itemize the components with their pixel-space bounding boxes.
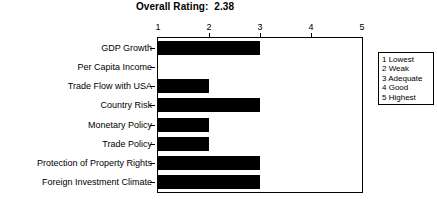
y-axis-category-label: Monetary Policy: [88, 120, 152, 130]
bar: [158, 118, 209, 132]
chart-title: Overall Rating: 2.38: [0, 1, 370, 12]
legend-entry: 4 Good: [382, 83, 433, 92]
bar: [158, 98, 260, 112]
legend-entry: 3 Adequate: [382, 74, 433, 83]
y-axis-category-label: Trade Policy: [102, 139, 152, 149]
x-tick-label: 2: [206, 22, 211, 32]
bar-series: [158, 38, 362, 192]
x-tick-label: 4: [308, 22, 313, 32]
y-axis-category-label: Foreign Investment Climate: [42, 177, 152, 187]
x-tick-label: 3: [257, 22, 262, 32]
y-axis-category-label: GDP Growth: [101, 43, 152, 53]
y-axis-labels: GDP GrowthPer Capita IncomeTrade Flow wi…: [0, 37, 155, 193]
legend-entry: 5 Highest: [382, 93, 433, 102]
x-tick-label: 1: [155, 22, 160, 32]
bar: [158, 137, 209, 151]
bar: [158, 175, 260, 189]
legend-entry: 1 Lowest: [382, 55, 433, 64]
legend-entry: 2 Weak: [382, 64, 433, 73]
bar: [158, 41, 260, 55]
y-axis-category-label: Per Capita Income: [77, 62, 152, 72]
y-axis-category-label: Protection of Property Rights: [37, 158, 152, 168]
x-tick-label: 5: [359, 22, 364, 32]
bar: [158, 156, 260, 170]
y-axis-category-label: Country Risk: [100, 100, 152, 110]
rating-scale-legend: 1 Lowest2 Weak3 Adequate4 Good5 Highest: [378, 52, 434, 105]
x-axis: 12345: [157, 22, 363, 37]
bar: [158, 79, 209, 93]
y-axis-category-label: Trade Flow with USA: [68, 81, 152, 91]
